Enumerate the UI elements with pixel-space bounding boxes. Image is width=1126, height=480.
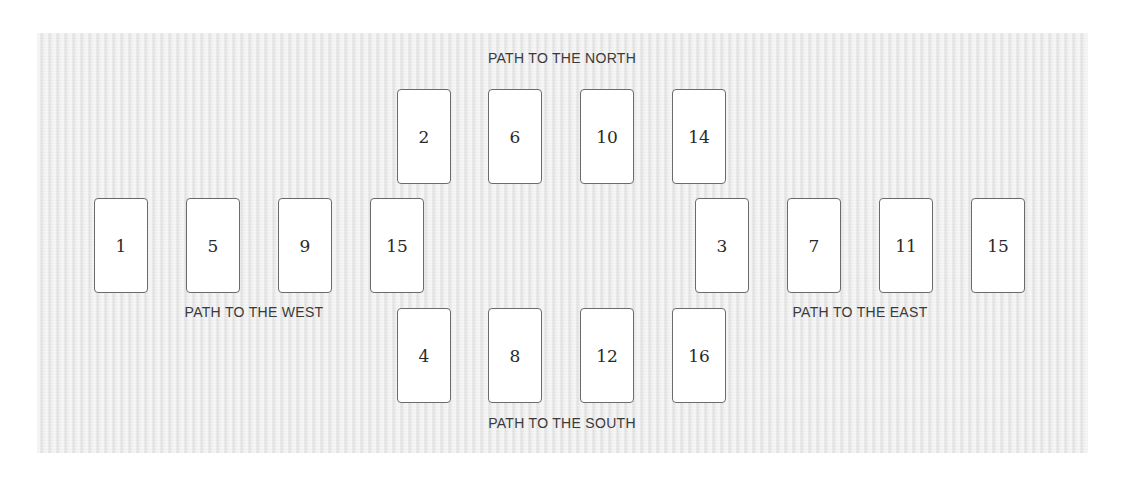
label-path-east: PATH TO THE EAST [793, 304, 928, 320]
label-path-north: PATH TO THE NORTH [488, 50, 636, 66]
card-west-3: 9 [278, 198, 332, 293]
card-west-1: 1 [94, 198, 148, 293]
card-south-3: 12 [580, 308, 634, 403]
card-east-1: 3 [695, 198, 749, 293]
card-east-4: 15 [971, 198, 1025, 293]
card-east-3: 11 [879, 198, 933, 293]
card-north-1: 2 [397, 89, 451, 184]
card-south-1: 4 [397, 308, 451, 403]
card-west-4: 15 [370, 198, 424, 293]
card-east-2: 7 [787, 198, 841, 293]
label-path-south: PATH TO THE SOUTH [488, 415, 636, 431]
card-north-2: 6 [488, 89, 542, 184]
card-north-4: 14 [672, 89, 726, 184]
card-north-3: 10 [580, 89, 634, 184]
card-south-2: 8 [488, 308, 542, 403]
card-west-2: 5 [186, 198, 240, 293]
card-south-4: 16 [672, 308, 726, 403]
label-path-west: PATH TO THE WEST [185, 304, 324, 320]
